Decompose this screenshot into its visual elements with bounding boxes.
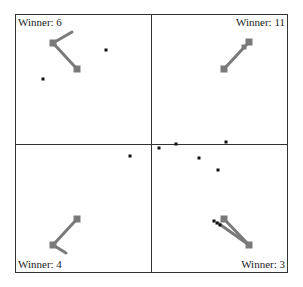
diagram-canvas: [0, 0, 303, 287]
data-point-bottom-right: [219, 224, 222, 227]
panel-label-bottom-left: Winner: 4: [18, 258, 62, 270]
data-point: [225, 141, 228, 144]
panel-label-top-left: Winner: 6: [18, 16, 62, 28]
quadrant-diagram: Winner: 6 Winner: 11 Winner: 4 Winner: 3: [0, 0, 303, 287]
node-square-top-right: [221, 66, 228, 73]
data-point: [175, 143, 178, 146]
node-square-bottom-right: [246, 242, 253, 249]
node-square-top-right: [242, 45, 247, 50]
node-square-top-left: [74, 66, 81, 73]
connection-line-bottom-right: [218, 223, 249, 245]
data-point: [158, 147, 161, 150]
data-point-bottom-right: [216, 222, 219, 225]
panel-label-top-right: Winner: 11: [236, 16, 285, 28]
node-square-top-left: [50, 40, 57, 47]
panel-label-bottom-right: Winner: 3: [241, 258, 285, 270]
node-square-top-right: [246, 39, 253, 46]
connection-line-bottom-left: [53, 219, 77, 253]
node-square-bottom-left: [50, 242, 57, 249]
data-point-bottom-right: [213, 220, 216, 223]
connection-line-top-left: [53, 32, 77, 69]
data-point: [129, 155, 132, 158]
data-point-top-left: [42, 78, 45, 81]
data-point-top-left: [105, 49, 108, 52]
node-square-bottom-left: [74, 216, 81, 223]
data-point: [217, 169, 220, 172]
data-point: [198, 157, 201, 160]
node-square-bottom-right: [221, 216, 228, 223]
